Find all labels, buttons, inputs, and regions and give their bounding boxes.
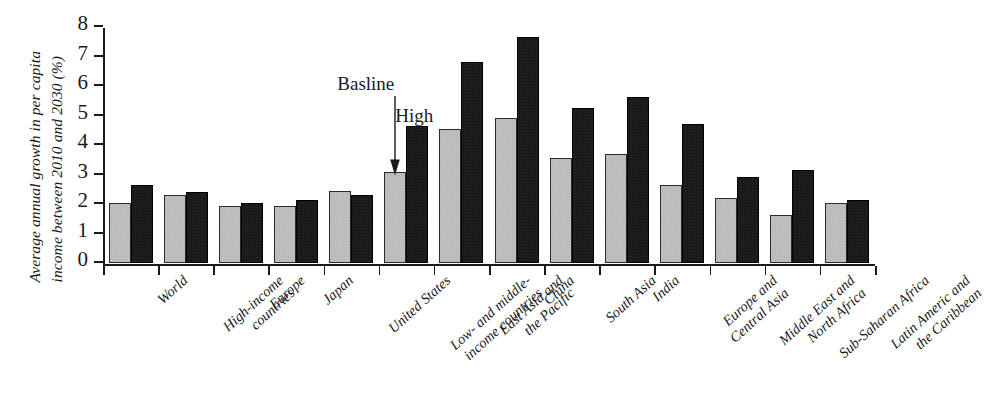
bar-group [770, 27, 814, 263]
x-axis-category-labels: WorldHigh-incomecountriesEuropeJapanUnit… [0, 272, 898, 406]
x-axis-category-label: Japan [319, 272, 357, 308]
bar [439, 129, 461, 263]
bar [296, 200, 318, 263]
y-axis-tick-label-6: 6 [68, 72, 88, 93]
bar-group [164, 27, 208, 263]
bar-group [439, 27, 483, 263]
bar [164, 195, 186, 263]
x-axis-category-label: South Asia [602, 272, 660, 326]
bar [605, 154, 627, 263]
y-axis-tick-8: 8 [94, 25, 103, 27]
bar-group [495, 27, 539, 263]
bar-group [605, 27, 649, 263]
y-axis-tick-label-3: 3 [68, 161, 88, 182]
y-axis-tick-4: 4 [94, 143, 103, 145]
y-axis-tick-6: 6 [94, 84, 103, 86]
bar-group [825, 27, 869, 263]
y-axis-tick-7: 7 [94, 55, 103, 57]
x-axis-category-label: Latin Americ andthe Caribbean [887, 272, 985, 365]
y-axis-tick-3: 3 [94, 173, 103, 175]
bar [660, 185, 682, 263]
x-axis-category-label: United States [385, 272, 454, 337]
bar [825, 203, 847, 263]
annotation-label-baseline: Basline [337, 74, 394, 93]
y-axis-tick-0: 0 [94, 261, 103, 263]
bar-group [109, 27, 153, 263]
y-axis-tick-label-7: 7 [68, 43, 88, 64]
bar [715, 198, 737, 263]
y-axis-line [103, 28, 105, 266]
annotation-label-high: High [395, 106, 433, 125]
plot-area: 012345678 Basline High [103, 28, 875, 265]
bar [219, 206, 241, 263]
bar-group [274, 27, 318, 263]
bar-group [715, 27, 759, 263]
bar [550, 158, 572, 263]
y-axis-tick-2: 2 [94, 202, 103, 204]
bar [682, 124, 704, 263]
bar [131, 185, 153, 263]
bar [792, 170, 814, 263]
y-axis-tick-label-8: 8 [68, 13, 88, 34]
bar [847, 200, 869, 263]
annotation-arrow-high [409, 128, 425, 129]
y-axis-tick-label-5: 5 [68, 102, 88, 123]
bar [737, 177, 759, 263]
y-axis-tick-1: 1 [94, 232, 103, 234]
y-axis-tick-label-2: 2 [68, 190, 88, 211]
bar [186, 192, 208, 263]
bar [517, 37, 539, 263]
x-axis-category-label: India [649, 272, 683, 305]
bar [329, 191, 351, 263]
bar [627, 97, 649, 263]
y-axis-tick-label-4: 4 [68, 131, 88, 152]
y-axis-tick-5: 5 [94, 114, 103, 116]
bar-group [329, 27, 373, 263]
bar [241, 203, 263, 263]
bar [461, 62, 483, 263]
bar-group [219, 27, 263, 263]
bar [495, 118, 517, 263]
bar [770, 215, 792, 263]
bar [572, 108, 594, 263]
bar [109, 203, 131, 263]
y-axis-tick-label-0: 0 [68, 249, 88, 270]
y-axis-title-line-2: income between 2010 and 2030 (%) [49, 55, 65, 282]
bar-group [660, 27, 704, 263]
y-axis-tick-label-1: 1 [68, 220, 88, 241]
y-axis-title-line-1: Average annual growth in per capita [27, 50, 43, 282]
bar-group [550, 27, 594, 263]
bar [406, 126, 428, 263]
x-axis-category-label: World [154, 272, 191, 308]
bar [384, 172, 406, 263]
bar [274, 206, 296, 263]
bar [351, 195, 373, 263]
